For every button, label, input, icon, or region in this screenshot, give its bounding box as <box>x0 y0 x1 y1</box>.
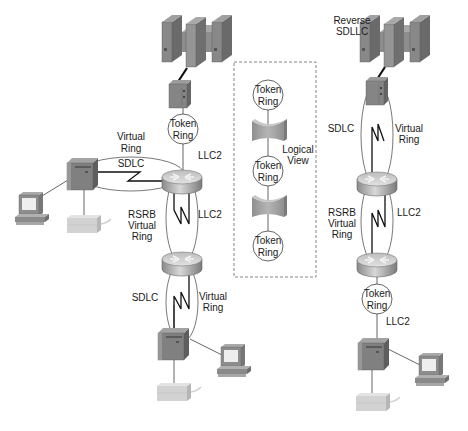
virtual-ring-label-upper-line2: Ring <box>121 143 142 154</box>
logical-view-label-line2: View <box>287 155 309 166</box>
llc2-label-middle: LLC2 <box>198 209 222 220</box>
sdlc-label-lower: SDLC <box>132 292 159 303</box>
logical-view-label-line1: Logical <box>282 144 314 155</box>
token-ring-label-line2: Ring <box>258 172 279 183</box>
router-icon-upper <box>162 170 202 194</box>
rsrb-label-line3: Ring <box>132 231 153 242</box>
right-network: Token Ring Reverse SDLLC SDLC Virtual Ri… <box>328 15 449 411</box>
cluster-controller-icon <box>67 158 98 190</box>
controller-to-pc-link-bottom <box>190 339 222 355</box>
reverse-sdllc-label-line1: Reverse <box>333 15 371 26</box>
rsrb-label-line1: RSRB <box>128 209 156 220</box>
cluster-controller-icon-bottom <box>158 328 189 360</box>
token-ring-label-line2: Ring <box>258 247 279 258</box>
logical-token-ring-3: Token Ring <box>253 231 283 261</box>
token-ring-right: Token Ring <box>362 284 392 314</box>
virtual-ring-label-lower-line1: Virtual <box>199 291 227 302</box>
token-ring-label-line1: Token <box>255 235 282 246</box>
token-ring-label-line1: Token <box>255 160 282 171</box>
front-end-processor-icon-right <box>366 77 388 105</box>
mainframe-icon <box>162 15 232 67</box>
router-icon-right-upper <box>357 172 397 196</box>
token-ring-label-line2: Ring <box>367 300 388 311</box>
token-ring-label-line1: Token <box>255 84 282 95</box>
rsrb-label-right-line1: RSRB <box>328 207 356 218</box>
router-icon-right-lower <box>357 253 397 277</box>
sdlc-label-right: SDLC <box>328 123 355 134</box>
rsrb-serial-line-right <box>372 187 385 255</box>
pc-icon <box>15 192 49 225</box>
printer-icon-right <box>356 393 400 411</box>
token-ring-label-line2: Ring <box>258 96 279 107</box>
sdlc-label-upper: SDLC <box>118 158 145 169</box>
bridge-icon-2 <box>252 195 287 217</box>
virtual-ring-label-lower-line2: Ring <box>203 302 224 313</box>
printer-icon <box>67 215 111 233</box>
llc2-label-right-lower: LLC2 <box>386 316 410 327</box>
router-icon-lower <box>162 252 202 276</box>
cluster-controller-icon-right <box>358 338 389 370</box>
sdlc-serial-line-right <box>372 124 384 172</box>
rsrb-label-line2: Virtual <box>128 220 156 231</box>
virtual-ring-label-right-line1: Virtual <box>395 123 423 134</box>
virtual-ring-label-right-line2: Ring <box>399 134 420 145</box>
token-ring-top: Token Ring <box>168 114 198 144</box>
rsrb-label-right-line3: Ring <box>332 229 353 240</box>
token-ring-label-line1: Token <box>170 118 197 129</box>
network-diagram: Token Ring Virtual Ring SDLC LLC2 RSRB V… <box>0 0 468 431</box>
left-network: Token Ring Virtual Ring SDLC LLC2 RSRB V… <box>15 15 251 401</box>
sdlc-serial-line-lower <box>174 268 189 330</box>
logical-token-ring-1: Token Ring <box>253 80 283 110</box>
pc-icon-right <box>415 353 449 386</box>
bridge-icon-1 <box>252 119 287 141</box>
token-ring-label-line2: Ring <box>173 130 194 141</box>
llc2-label-right-middle: LLC2 <box>397 207 421 218</box>
rsrb-label-right-line2: Virtual <box>328 218 356 229</box>
pc-icon-bottom <box>217 344 251 377</box>
virtual-ring-label-upper-line1: Virtual <box>117 131 145 142</box>
front-end-processor-icon <box>169 80 191 108</box>
sdlc-serial-line-upper <box>98 172 162 181</box>
controller-to-pc-link-right <box>388 349 420 365</box>
logical-token-ring-2: Token Ring <box>253 156 283 186</box>
logical-view-panel: Token Ring Token Ring Token Ring Logical… <box>234 62 316 277</box>
llc2-label-upper: LLC2 <box>198 150 222 161</box>
reverse-sdllc-label-line2: SDLLC <box>336 26 368 37</box>
token-ring-label-line1: Token <box>364 288 391 299</box>
controller-to-pc-link <box>42 180 68 196</box>
printer-icon-bottom <box>157 383 201 401</box>
